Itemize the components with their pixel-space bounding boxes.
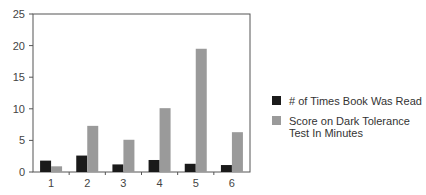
x-tick-label: 3 bbox=[120, 177, 126, 189]
y-tick-label: 20 bbox=[13, 40, 25, 52]
bar bbox=[40, 161, 51, 172]
bar bbox=[196, 49, 207, 172]
x-tick-label: 4 bbox=[157, 177, 163, 189]
bar bbox=[185, 164, 196, 172]
bar bbox=[232, 132, 243, 172]
x-tick-label: 6 bbox=[229, 177, 235, 189]
plot-frame bbox=[33, 14, 250, 172]
x-tick-label: 2 bbox=[84, 177, 90, 189]
legend-swatch-gray bbox=[272, 116, 281, 125]
legend-item-dark-tolerance: Score on Dark Tolerance Test In Minutes bbox=[272, 115, 426, 139]
legend-swatch-dark bbox=[272, 96, 281, 105]
bar bbox=[76, 156, 87, 172]
x-tick-label: 5 bbox=[193, 177, 199, 189]
y-tick-label: 15 bbox=[13, 71, 25, 83]
bar bbox=[123, 140, 134, 172]
legend: # of Times Book Was Read Score on Dark T… bbox=[272, 95, 426, 147]
bar bbox=[51, 166, 62, 172]
bar bbox=[87, 126, 98, 172]
bar bbox=[221, 165, 232, 172]
y-tick-label: 0 bbox=[19, 166, 25, 178]
x-tick-label: 1 bbox=[48, 177, 54, 189]
bar bbox=[112, 164, 123, 172]
legend-item-times-read: # of Times Book Was Read bbox=[272, 95, 426, 107]
legend-label: # of Times Book Was Read bbox=[289, 95, 422, 107]
legend-label: Score on Dark Tolerance Test In Minutes bbox=[289, 115, 426, 139]
y-tick-label: 10 bbox=[13, 103, 25, 115]
bar bbox=[149, 160, 160, 172]
bar bbox=[160, 108, 171, 172]
y-tick-label: 25 bbox=[13, 8, 25, 20]
y-tick-label: 5 bbox=[19, 134, 25, 146]
